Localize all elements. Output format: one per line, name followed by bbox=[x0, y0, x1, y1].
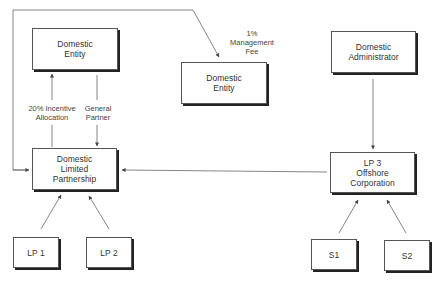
node-label: Domestic Entity bbox=[206, 73, 241, 93]
domestic-administrator-box: Domestic Administrator bbox=[331, 31, 416, 73]
node-label: Domestic Entity bbox=[57, 39, 92, 59]
domestic-limited-partnership-box: Domestic Limited Partnership bbox=[32, 148, 117, 190]
domestic-entity-mgr-box: Domestic Entity bbox=[181, 62, 267, 104]
s2-connector bbox=[387, 200, 406, 233]
general-partner-label: General Partner bbox=[78, 104, 118, 122]
s1-box: S1 bbox=[311, 239, 357, 270]
management-fee-label: 1% Management Fee bbox=[222, 29, 282, 56]
s1-connector bbox=[339, 200, 358, 233]
lp3-to-dlp-connector bbox=[122, 170, 327, 172]
node-label: LP 2 bbox=[100, 248, 117, 258]
node-label: Domestic Limited Partnership bbox=[53, 154, 96, 184]
incentive-allocation-label: 20% Incentive Allocation bbox=[20, 104, 84, 122]
lp2-connector bbox=[89, 196, 109, 229]
node-label: S1 bbox=[329, 250, 339, 260]
lp1-connector bbox=[41, 195, 61, 229]
node-label: LP 3 Offshore Corporation bbox=[350, 158, 394, 188]
lp3-offshore-corporation-box: LP 3 Offshore Corporation bbox=[330, 152, 415, 193]
node-label: LP 1 bbox=[27, 248, 44, 258]
node-label: S2 bbox=[402, 251, 412, 261]
lp1-box: LP 1 bbox=[13, 237, 59, 268]
node-label: Domestic Administrator bbox=[348, 42, 398, 62]
s2-box: S2 bbox=[384, 240, 430, 271]
lp2-box: LP 2 bbox=[86, 237, 132, 268]
domestic-entity-gp-box: Domestic Entity bbox=[32, 28, 118, 70]
